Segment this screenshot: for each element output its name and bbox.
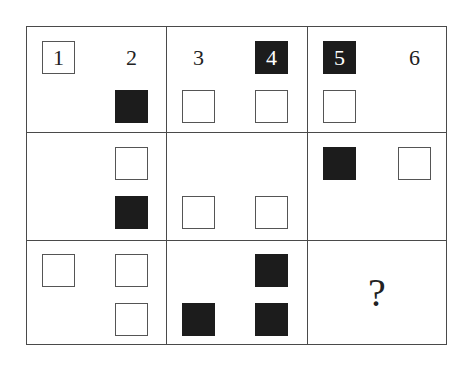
white-square	[323, 90, 356, 123]
slot-4-filled-number: 4	[255, 41, 288, 74]
white-square	[255, 90, 288, 123]
black-square	[323, 147, 356, 180]
black-square	[255, 254, 288, 287]
white-square	[182, 90, 215, 123]
black-square	[115, 196, 148, 229]
cell-1: 1 2	[27, 27, 166, 132]
question-mark: ?	[308, 241, 446, 344]
cell-5	[167, 133, 307, 240]
white-square	[255, 196, 288, 229]
cell-9-answer: ?	[308, 241, 446, 344]
white-square	[115, 303, 148, 336]
white-square	[182, 196, 215, 229]
slot-1-outlined-number: 1	[42, 41, 75, 74]
cell-4	[27, 133, 166, 240]
white-square	[115, 254, 148, 287]
black-square	[182, 303, 215, 336]
black-square	[255, 303, 288, 336]
white-square	[398, 147, 431, 180]
black-square	[115, 90, 148, 123]
slot-3-plain-number: 3	[182, 41, 215, 74]
cell-2: 3 4	[167, 27, 307, 132]
slot-5-filled-number: 5	[323, 41, 356, 74]
white-square	[115, 147, 148, 180]
slot-6-plain-number: 6	[398, 41, 431, 74]
cell-8	[167, 241, 307, 344]
slot-2-plain-number: 2	[115, 41, 148, 74]
cell-3: 5 6	[308, 27, 446, 132]
cell-7	[27, 241, 166, 344]
white-square	[42, 254, 75, 287]
puzzle-grid: 1 2 3 4 5 6 ?	[26, 26, 447, 345]
cell-6	[308, 133, 446, 240]
